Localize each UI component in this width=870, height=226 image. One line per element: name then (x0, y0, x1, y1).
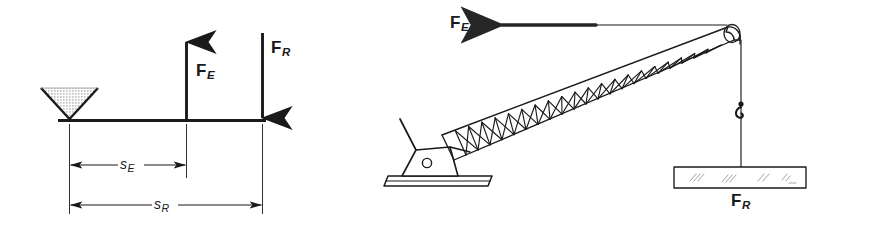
crane-pictorial-svg (330, 0, 870, 226)
effort-distance-label: sE (120, 157, 135, 174)
crane-ground-rail (384, 176, 492, 186)
crane-resistance-force-label: FR (731, 192, 750, 212)
crane-base-housing (400, 119, 470, 176)
resistance-force-label: FR (271, 39, 290, 59)
crane-effort-force-label: FE (450, 14, 469, 34)
fulcrum-wedge (41, 88, 98, 119)
effort-force-label: FE (196, 62, 215, 82)
lever-schematic-svg (0, 0, 330, 226)
crane-pictorial-panel: FE FR (330, 0, 870, 226)
suspended-load (674, 167, 806, 188)
mechanics-figure: FE FR sE sR (0, 0, 870, 226)
resistance-distance-label: sR (154, 197, 169, 214)
crane-lattice-boom (442, 27, 734, 160)
lever-schematic-panel: FE FR sE sR (0, 0, 330, 226)
hoist-hook (736, 101, 744, 117)
